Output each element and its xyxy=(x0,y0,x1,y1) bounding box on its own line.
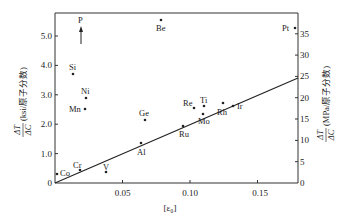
p-arrow-annotation xyxy=(79,26,83,44)
svg-text:Re: Re xyxy=(183,98,193,108)
arrow-up-icon xyxy=(79,26,83,32)
point-ru xyxy=(182,125,185,128)
svg-text:Cr: Cr xyxy=(73,160,82,170)
chart: 0 1.0 2.0 3.0 4.0 5.0 0 5 10 15 20 25 30… xyxy=(0,0,347,224)
svg-text:20: 20 xyxy=(300,93,310,103)
svg-text:ΔT: ΔT xyxy=(315,129,325,141)
svg-text:ΔC: ΔC xyxy=(23,124,33,136)
svg-text:35: 35 xyxy=(300,29,310,39)
svg-text:4.0: 4.0 xyxy=(41,60,53,70)
svg-text:ΔT: ΔT xyxy=(12,124,22,136)
svg-text:5.0: 5.0 xyxy=(41,31,53,41)
point-mo xyxy=(202,113,205,116)
svg-text:Si: Si xyxy=(69,62,77,72)
svg-text:ΔC: ΔC xyxy=(326,129,336,141)
svg-text:Co: Co xyxy=(60,168,70,178)
svg-text:Mn: Mn xyxy=(69,104,82,114)
svg-text:Ge: Ge xyxy=(139,108,149,118)
point-ir xyxy=(232,105,235,108)
point-re xyxy=(193,107,196,110)
point-ge xyxy=(144,119,147,122)
point-co xyxy=(56,173,59,176)
svg-text:Al: Al xyxy=(137,147,146,157)
svg-text:Rh: Rh xyxy=(217,107,228,117)
svg-text:Pt: Pt xyxy=(282,23,290,33)
svg-text:Ti: Ti xyxy=(200,95,208,105)
point-be xyxy=(160,19,163,22)
svg-text:Ru: Ru xyxy=(179,129,190,139)
svg-text:30: 30 xyxy=(300,50,310,60)
svg-text:3.0: 3.0 xyxy=(41,90,53,100)
svg-text:10: 10 xyxy=(300,135,310,145)
svg-text:0.10: 0.10 xyxy=(182,188,198,198)
svg-text:Ni: Ni xyxy=(81,86,90,96)
left-axis-title: ΔT ΔC (ksi/原子分数) xyxy=(12,67,33,137)
x-axis-title: [ε₀] xyxy=(164,203,177,213)
svg-text:(ksi/原子分数): (ksi/原子分数) xyxy=(18,67,28,121)
right-axis-labels: 0 5 10 15 20 25 30 35 xyxy=(300,29,310,188)
x-axis-labels: 0.05 0.10 0.15 xyxy=(115,188,269,198)
point-mn xyxy=(84,108,87,111)
point-si xyxy=(72,73,75,76)
svg-text:Ir: Ir xyxy=(237,101,243,111)
fit-line xyxy=(55,78,298,183)
svg-text:V: V xyxy=(103,162,110,172)
point-al xyxy=(140,142,143,145)
svg-text:25: 25 xyxy=(300,71,310,81)
svg-text:1.0: 1.0 xyxy=(41,149,53,159)
plot-frame xyxy=(55,13,298,183)
svg-text:15: 15 xyxy=(300,114,310,124)
point-ti xyxy=(203,105,206,108)
svg-text:0.05: 0.05 xyxy=(115,188,131,198)
svg-text:0: 0 xyxy=(300,178,305,188)
point-rh xyxy=(222,102,225,105)
left-axis-labels: 0 1.0 2.0 3.0 4.0 5.0 xyxy=(41,31,53,188)
point-pt xyxy=(294,27,297,30)
svg-text:Mo: Mo xyxy=(198,116,210,126)
right-axis-title: ΔT ΔC (MPa/原子分数) xyxy=(315,66,336,142)
svg-text:0: 0 xyxy=(48,178,53,188)
svg-text:0.15: 0.15 xyxy=(252,188,268,198)
svg-text:2.0: 2.0 xyxy=(41,119,53,129)
svg-text:Be: Be xyxy=(156,23,166,33)
point-ni xyxy=(85,97,88,100)
svg-text:P: P xyxy=(78,15,83,25)
svg-text:5: 5 xyxy=(300,157,305,167)
data-points xyxy=(56,19,297,176)
svg-text:(MPa/原子分数): (MPa/原子分数) xyxy=(321,66,331,126)
